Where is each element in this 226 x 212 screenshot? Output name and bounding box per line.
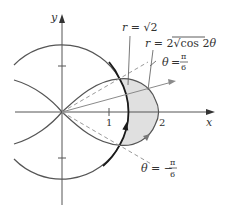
ray-sample-arrow-icon [168, 79, 176, 85]
lemniscate-equation-label: r = 2√cos 2θ [145, 37, 216, 50]
svg-text:r = 2√cos 2θ: r = 2√cos 2θ [145, 37, 216, 50]
svg-text:θ: θ [141, 162, 148, 175]
circle-left-arc [14, 45, 120, 79]
x-tick-label-1: 1 [106, 117, 112, 128]
y-axis-arrow-icon [59, 14, 65, 23]
y-axis-label: y [50, 11, 58, 24]
svg-text:6: 6 [181, 63, 186, 72]
lemniscate-left-lower [14, 112, 62, 144]
x-tick-label-2: 2 [159, 117, 165, 128]
svg-text:π: π [181, 52, 186, 61]
theta-pos-label: θ = π 6 [162, 52, 188, 72]
svg-text:=: = [171, 56, 180, 69]
x-axis-label: x [206, 116, 213, 129]
leader-circle [128, 36, 130, 85]
svg-text:θ: θ [162, 56, 169, 69]
circle-right-arc-extend-bottom [103, 145, 120, 166]
svg-text:π: π [170, 158, 175, 167]
circle-equation-label: r = √2 [122, 21, 158, 34]
theta-neg-label: θ = − π 6 [141, 158, 177, 179]
leader-theta-pos [150, 61, 156, 66]
svg-text:r = √2: r = √2 [122, 21, 158, 34]
svg-text:6: 6 [170, 170, 175, 179]
polar-diagram: y x 1 2 r = √2 r = 2√cos 2θ θ = π 6 θ = … [0, 0, 226, 212]
x-axis-arrow-icon [206, 109, 215, 115]
leader-lemniscate [148, 50, 153, 90]
lemniscate-left-upper [14, 80, 62, 112]
circle-left-arc-bottom [14, 145, 120, 179]
circle-right-arc-extend-top [109, 62, 120, 79]
